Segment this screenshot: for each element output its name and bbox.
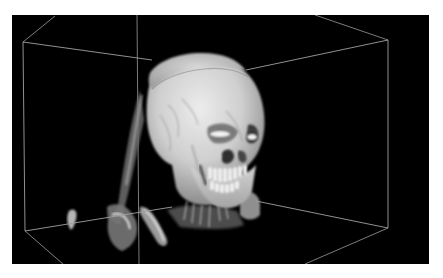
volume-render-viewport[interactable] bbox=[12, 15, 429, 264]
render-canvas[interactable] bbox=[12, 15, 429, 264]
skull-volume bbox=[67, 53, 264, 251]
